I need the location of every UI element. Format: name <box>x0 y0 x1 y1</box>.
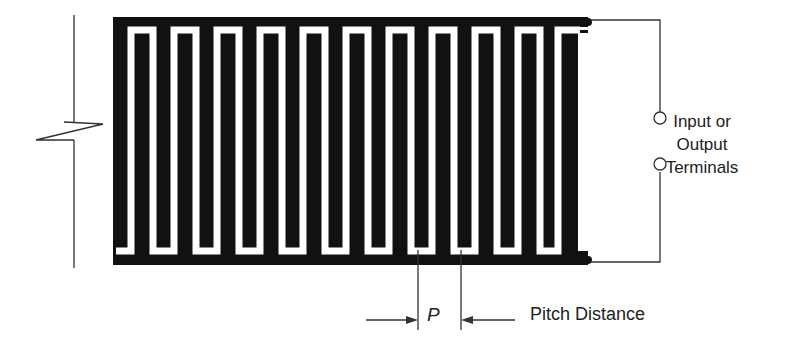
pitch-symbol: P <box>427 304 440 326</box>
terminals-label: Input or Output Terminals <box>652 110 752 179</box>
pitch-distance-label: Pitch Distance <box>530 304 645 325</box>
break-line <box>36 15 103 268</box>
electrode-pattern <box>113 17 592 265</box>
terminals-label-line2: Output <box>652 133 752 156</box>
terminals-label-line3: Terminals <box>652 156 752 179</box>
terminals-label-line1: Input or <box>652 110 752 133</box>
terminal-wiring <box>590 20 660 262</box>
